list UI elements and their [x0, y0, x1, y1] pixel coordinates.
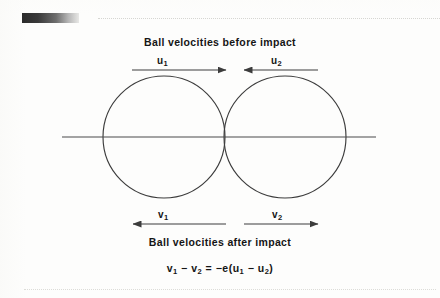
eq-close-paren: ) — [269, 262, 273, 274]
velocity-label-v2: v2 — [272, 209, 282, 220]
velocity-label-u1-subscript: 1 — [163, 59, 167, 68]
collision-diagram-svg — [0, 0, 440, 298]
caption-after-impact: Ball velocities after impact — [0, 236, 440, 248]
velocity-label-u2-subscript: 2 — [277, 59, 281, 68]
velocity-label-v2-symbol: v — [272, 209, 278, 220]
restitution-equation: v1 − v2 = −e(u1 − u2) — [0, 262, 440, 274]
eq-equals: = — [206, 262, 213, 274]
velocity-label-u1: u1 — [157, 55, 168, 66]
eq-minus-1: − — [181, 262, 188, 274]
eq-u-2: u — [258, 262, 265, 274]
eq-neg-e-open: −e( — [216, 262, 233, 274]
velocity-label-v1-symbol: v — [158, 209, 164, 220]
eq-u-1-sub: 1 — [240, 267, 245, 276]
eq-u-2-sub: 2 — [265, 267, 270, 276]
eq-u-1: u — [233, 262, 240, 274]
eq-v-2-sub: 2 — [198, 267, 203, 276]
velocity-label-u2: u2 — [271, 55, 282, 66]
eq-v-1-sub: 1 — [173, 267, 178, 276]
velocity-label-v2-subscript: 2 — [278, 213, 282, 222]
velocity-label-v1: v1 — [158, 209, 168, 220]
eq-v-2: v — [191, 262, 197, 274]
velocity-label-v1-subscript: 1 — [164, 213, 168, 222]
eq-minus-2: − — [248, 262, 255, 274]
figure-page: Ball velocities before impact u1 u2 v1 v… — [0, 0, 440, 298]
